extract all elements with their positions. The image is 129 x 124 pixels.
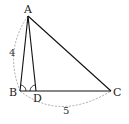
dimension-label-bc: 5 — [63, 105, 69, 116]
angle-mark-b — [21, 85, 26, 91]
dimension-label-ab: 4 — [9, 47, 15, 58]
segment-ac — [28, 16, 111, 91]
triangle-diagram: A B C D 4 5 — [0, 0, 129, 124]
label-d: D — [33, 92, 42, 105]
label-a: A — [23, 3, 33, 16]
angle-mark-d — [30, 85, 35, 91]
label-c: C — [113, 86, 121, 99]
segment-ab — [20, 16, 28, 91]
segment-ad — [28, 16, 36, 91]
label-b: B — [9, 86, 17, 99]
